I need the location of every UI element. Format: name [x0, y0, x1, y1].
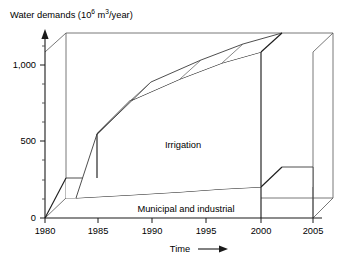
x-tick-label-2000: 2000 [251, 226, 272, 236]
series-label-irrigation: Irrigation [165, 140, 201, 150]
box-depth-edge-bottom-right [313, 198, 333, 218]
x-tick-label-1980: 1980 [35, 226, 56, 236]
box-depth-edge-bottom-left [45, 198, 66, 218]
y-axis-arrowhead [41, 29, 48, 39]
water-demands-3d-area-chart: Municipal and industrial Irrigation [0, 0, 350, 258]
x-tick-label-1985: 1985 [88, 226, 109, 236]
x-tick-label-1990: 1990 [142, 226, 163, 236]
x-tick-label-1995: 1995 [196, 226, 217, 236]
chart-title-tail: /year) [109, 10, 133, 20]
x-axis-label-arrowhead [219, 246, 228, 253]
x-tick-labels: 1980 1985 1990 1995 2000 2005 [35, 226, 324, 236]
muni-right-slab-face [261, 167, 313, 187]
x-axis-label: Time [170, 244, 190, 254]
y-tick-label-0: 0 [31, 213, 36, 223]
chart-title-mid: m [95, 10, 106, 20]
x-tick-label-2005: 2005 [303, 226, 324, 236]
series-irrigation: Irrigation [76, 33, 282, 198]
box-depth-edge-top-right [313, 33, 333, 52]
x-axis-label-group: Time [170, 244, 228, 254]
muni-left-rise-front [45, 178, 66, 218]
y-tick-labels: 0 500 1,000 [13, 60, 36, 223]
y-tick-label-1000: 1,000 [13, 60, 36, 70]
chart-title-main: Water demands (10 [10, 10, 91, 20]
box-depth-edge-top-left [45, 33, 66, 52]
chart-svg: Municipal and industrial Irrigation [0, 0, 350, 258]
series-label-municipal-and-industrial: Municipal and industrial [137, 204, 234, 214]
chart-title: Water demands (106 m3/year) [10, 8, 133, 20]
y-tick-label-500: 500 [20, 136, 36, 146]
